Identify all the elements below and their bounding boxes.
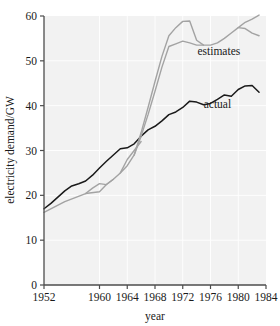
y-axis-title: electricity demand/GW — [4, 96, 17, 204]
x-axis-title: year — [145, 310, 165, 323]
chart-figure: 0102030405060 19521960196419681972197619… — [0, 0, 280, 326]
x-tick-label: 1984 — [255, 291, 278, 303]
x-tick-label: 1964 — [116, 291, 139, 303]
x-tick-label: 1980 — [227, 291, 250, 303]
x-tick-label: 1976 — [199, 291, 222, 303]
y-tick-label: 0 — [31, 279, 37, 291]
y-axis-tick-labels: 0102030405060 — [26, 10, 38, 291]
electricity-demand-line-chart: 0102030405060 19521960196419681972197619… — [0, 0, 280, 326]
x-tick-label: 1960 — [88, 291, 111, 303]
x-tick-label: 1968 — [144, 291, 167, 303]
annotation-actual: actual — [204, 98, 231, 110]
x-axis-tick-labels: 19521960196419681972197619801984 — [33, 291, 278, 303]
x-tick-label: 1972 — [171, 291, 194, 303]
y-tick-label: 30 — [26, 145, 38, 157]
y-tick-label: 50 — [26, 55, 38, 67]
y-tick-label: 20 — [26, 189, 38, 201]
y-tick-label: 10 — [26, 234, 38, 246]
x-tick-label: 1952 — [33, 291, 56, 303]
annotation-estimates: estimates — [197, 45, 240, 57]
y-tick-label: 40 — [26, 100, 38, 112]
y-tick-label: 60 — [26, 10, 38, 22]
